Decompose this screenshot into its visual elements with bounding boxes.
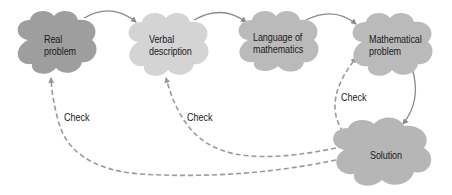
arrow-language-to-math [306, 14, 356, 24]
label-line: problem [369, 45, 422, 57]
node-label-verbal-description: Verbal description [149, 33, 192, 57]
arrow-math-to-solution [403, 68, 415, 124]
label-line: Verbal [149, 33, 192, 45]
arrow-verbal-to-language [194, 12, 246, 22]
check-label-math: Check [341, 91, 367, 103]
label-line: description [149, 45, 192, 57]
label-line: mathematics [253, 43, 303, 55]
node-label-solution: Solution [370, 149, 402, 161]
check-arrow-solution-to-real [51, 78, 336, 175]
check-label-real: Check [64, 111, 90, 123]
node-label-mathematical-problem: Mathematical problem [369, 33, 422, 57]
label-line: problem [44, 45, 76, 57]
label-line: Language of [253, 31, 303, 43]
node-label-real-problem: Real problem [44, 33, 76, 57]
node-label-language-of-mathematics: Language of mathematics [253, 31, 303, 55]
check-label-verbal: Check [187, 111, 213, 123]
arrow-real-to-verbal [84, 11, 136, 22]
label-line: Real [44, 33, 76, 45]
diagram-canvas [0, 0, 452, 195]
label-line: Solution [370, 149, 402, 161]
label-line: Mathematical [369, 33, 422, 45]
